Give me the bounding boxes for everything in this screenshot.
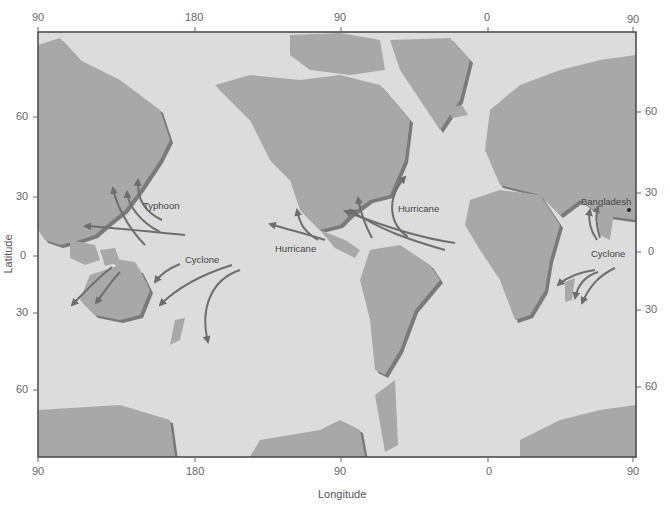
label-hurricane-atlantic: Hurricane xyxy=(398,203,439,214)
label-cyclone-pacific: Cyclone xyxy=(185,254,219,265)
label-typhoon: Typhoon xyxy=(143,200,179,211)
top-tick-3: 90 xyxy=(334,11,346,23)
bottom-tick-5: 90 xyxy=(627,465,639,477)
label-bangladesh: Bangladesh xyxy=(581,196,631,207)
top-tick-1: 90 xyxy=(32,11,44,23)
bottom-tick-4: 0 xyxy=(486,465,492,477)
bottom-tick-2: 180 xyxy=(186,465,204,477)
top-tick-5: 90 xyxy=(627,13,639,25)
right-tick-4: 30 xyxy=(645,303,657,315)
right-tick-5: 60 xyxy=(645,380,657,392)
left-tick-3: 0 xyxy=(20,249,26,261)
x-axis-title: Longitude xyxy=(318,488,366,500)
bangladesh-marker xyxy=(627,208,631,212)
bottom-tick-1: 90 xyxy=(32,465,44,477)
top-tick-4: 0 xyxy=(484,11,490,23)
bottom-tick-3: 90 xyxy=(334,465,346,477)
left-tick-2: 30 xyxy=(16,190,28,202)
world-map xyxy=(0,0,670,505)
label-hurricane-pacific: Hurricane xyxy=(275,243,316,254)
right-tick-2: 30 xyxy=(645,186,657,198)
left-tick-4: 30 xyxy=(16,306,28,318)
right-tick-3: 0 xyxy=(648,245,654,257)
label-cyclone-indian: Cyclone xyxy=(591,248,625,259)
left-tick-5: 60 xyxy=(16,383,28,395)
top-tick-2: 180 xyxy=(185,11,203,23)
right-tick-1: 60 xyxy=(645,105,657,117)
y-axis-title: Latitude xyxy=(2,234,14,273)
left-tick-1: 60 xyxy=(16,110,28,122)
